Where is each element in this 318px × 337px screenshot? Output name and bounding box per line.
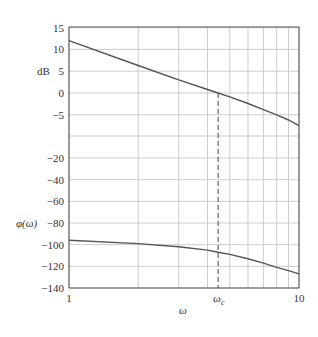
magnitude-axis-label: dB xyxy=(37,65,50,77)
magnitude-curve xyxy=(69,41,299,126)
mag-tick-label: 0 xyxy=(59,87,65,99)
x-axis-label: ω xyxy=(179,304,187,316)
phase-tick-label: −60 xyxy=(47,195,65,207)
phase-tick-label: −80 xyxy=(47,217,65,229)
phase-tick-label: −140 xyxy=(41,282,64,294)
phase-tick-label: −100 xyxy=(41,239,64,251)
axis-labels: 151050−5−20−40−60−80−100−120−140110ωcωdB… xyxy=(16,22,305,316)
phase-tick-label: −20 xyxy=(47,152,65,164)
phase-tick-label: −120 xyxy=(41,260,64,272)
bode-plot: 151050−5−20−40−60−80−100−120−140110ωcωdB… xyxy=(0,0,318,337)
curves xyxy=(69,41,299,288)
crossover-subscript: c xyxy=(221,298,225,307)
phase-curve xyxy=(69,240,299,274)
crossover-label: ω xyxy=(213,292,221,304)
mag-tick-label: 5 xyxy=(59,65,65,77)
x-tick-label: 10 xyxy=(294,292,306,304)
mag-tick-label: −5 xyxy=(52,109,64,121)
grid-lines xyxy=(69,27,299,288)
phase-tick-label: −40 xyxy=(47,174,65,186)
mag-tick-label: 10 xyxy=(53,43,65,55)
x-tick-label: 1 xyxy=(66,292,72,304)
phase-axis-label: φ(ω) xyxy=(16,217,38,230)
mag-tick-label: 15 xyxy=(53,22,65,34)
